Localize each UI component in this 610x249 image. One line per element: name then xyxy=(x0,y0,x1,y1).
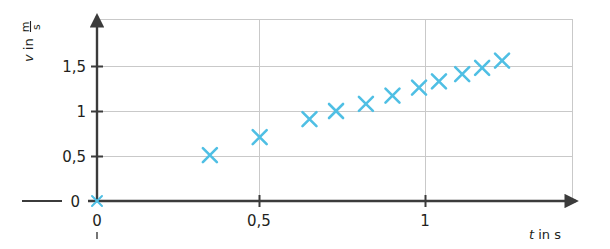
y-axis-title-rest: in xyxy=(21,38,36,50)
y-tick-labels: 0 0,5 1 1,5 xyxy=(62,58,86,211)
data-point-marker xyxy=(455,67,469,81)
x-tick-label-0.5: 0,5 xyxy=(247,212,271,230)
y-tick-label-1: 1 xyxy=(76,103,86,121)
y-axis-title-frac-denominator: s xyxy=(30,24,43,30)
data-point-marker xyxy=(432,74,446,88)
x-tick-label-1: 1 xyxy=(420,212,430,230)
svg-text:v in: v in xyxy=(21,38,36,62)
y-tick-label-0: 0 xyxy=(70,193,80,211)
x-axis-title-rest: in s xyxy=(538,227,561,242)
data-point-marker xyxy=(475,61,489,75)
scatter-chart: 0 0,5 1 1,5 0 0,5 1 t in s v in m s xyxy=(0,0,610,249)
x-tick-label-0: 0 xyxy=(92,212,102,230)
y-tick-label-0.5: 0,5 xyxy=(62,148,86,166)
plot-canvas: 0 0,5 1 1,5 0 0,5 1 t in s v in m s xyxy=(0,0,610,249)
data-point-marker xyxy=(412,81,426,95)
y-tick-label-1.5: 1,5 xyxy=(62,58,86,76)
data-point-marker xyxy=(385,89,399,103)
axis-lines xyxy=(22,16,576,239)
data-point-marker xyxy=(302,112,316,126)
y-axis-title: v in m s xyxy=(19,21,43,62)
data-point-group xyxy=(92,54,509,206)
data-point-marker xyxy=(495,54,509,68)
x-tick-labels: 0 0,5 1 xyxy=(92,212,430,230)
svg-text:t in s: t in s xyxy=(529,227,561,242)
data-point-marker xyxy=(203,148,217,162)
data-point-marker xyxy=(359,97,373,111)
x-axis-title: t in s xyxy=(529,227,561,242)
